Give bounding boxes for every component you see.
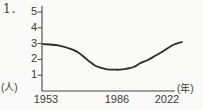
y-axis-unit-label: (人): [1, 83, 18, 93]
axes-lines: [42, 6, 175, 91]
y-tick-label-2: 2: [23, 53, 37, 64]
y-tick-label-4: 4: [23, 22, 37, 33]
y-axis-tick-marks: [38, 12, 43, 75]
x-tick-label-1986: 1986: [102, 94, 132, 105]
x-axis-unit-label: (年): [177, 84, 194, 94]
y-tick-label-1: 1: [23, 69, 37, 80]
data-curve: [43, 42, 182, 70]
item-number: 1.: [3, 3, 16, 15]
chart-figure: 1. 5 4 3 2 1 (人) (年) 1953 1986 2022: [0, 0, 203, 110]
x-tick-label-2022: 2022: [152, 94, 182, 105]
y-tick-label-3: 3: [23, 38, 37, 49]
x-tick-label-1953: 1953: [31, 94, 61, 105]
y-tick-label-5: 5: [23, 6, 37, 17]
